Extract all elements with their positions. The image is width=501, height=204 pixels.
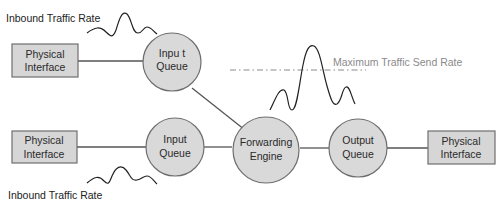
- max-send-rate-label: Maximum Traffic Send Rate: [333, 56, 463, 68]
- output-queue: Output Queue: [329, 119, 387, 177]
- physical-interface-right-label-2: Interface: [441, 148, 482, 160]
- physical-interface-right-label-1: Physical: [441, 135, 480, 147]
- input-queue-bottom-label-1: Input: [163, 133, 186, 145]
- input-queue-top-label-1: Inpu t: [159, 47, 185, 59]
- input-queue-bottom-label-2: Queue: [159, 147, 191, 159]
- physical-interface-top-label-2: Interface: [25, 61, 66, 73]
- physical-interface-top: Physical Interface: [12, 44, 78, 77]
- physical-interface-top-label-1: Physical: [25, 48, 64, 60]
- inbound-traffic-rate-top-label: Inbound Traffic Rate: [6, 12, 101, 24]
- forwarding-engine: Forwarding Engine: [233, 117, 299, 183]
- physical-interface-bottom: Physical Interface: [12, 131, 77, 163]
- edge-input-queue-top-to-forwarding: [192, 88, 245, 130]
- forwarding-engine-label-1: Forwarding: [240, 136, 293, 148]
- input-queue-top: Inpu t Queue: [143, 33, 201, 91]
- physical-interface-bottom-label-2: Interface: [24, 148, 65, 160]
- input-queue-top-label-2: Queue: [156, 60, 188, 72]
- forwarding-engine-label-2: Engine: [250, 150, 283, 162]
- physical-interface-bottom-label-1: Physical: [24, 134, 63, 146]
- output-queue-label-1: Output: [342, 134, 374, 146]
- router-queue-diagram: Physical Interface Inpu t Queue Physical…: [0, 0, 501, 204]
- inbound-traffic-wave-bottom: [87, 167, 157, 184]
- output-queue-label-2: Queue: [342, 148, 374, 160]
- input-queue-bottom: Input Queue: [146, 118, 204, 176]
- inbound-traffic-rate-bottom-label: Inbound Traffic Rate: [8, 189, 103, 201]
- physical-interface-right: Physical Interface: [428, 131, 495, 164]
